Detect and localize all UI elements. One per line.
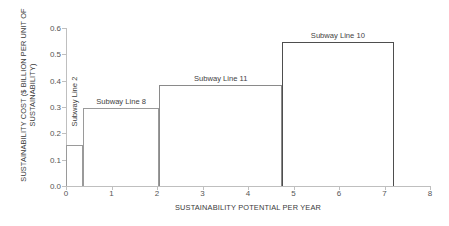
y-tick-label: 0.3 bbox=[39, 103, 61, 112]
y-tick-mark bbox=[62, 133, 66, 134]
y-tick-label: 0.1 bbox=[39, 155, 61, 164]
step-block bbox=[66, 145, 83, 186]
x-tick-label: 4 bbox=[236, 189, 260, 198]
y-tick-label: 0.6 bbox=[39, 24, 61, 33]
step-block bbox=[282, 42, 393, 186]
y-tick-label: 0.4 bbox=[39, 76, 61, 85]
x-tick-label: 0 bbox=[54, 189, 78, 198]
chart-container: SUSTAINABILITY COST ($ BILLION PER UNIT … bbox=[0, 0, 449, 226]
step-label-subway-line-11: Subway Line 11 bbox=[194, 74, 247, 83]
step-block bbox=[159, 85, 282, 186]
y-tick-label: 0.2 bbox=[39, 129, 61, 138]
x-tick-label: 1 bbox=[100, 189, 124, 198]
x-tick-label: 8 bbox=[418, 189, 442, 198]
y-tick-mark bbox=[62, 81, 66, 82]
step-label-subway-line-2: Subway Line 2 bbox=[70, 77, 79, 127]
x-tick-label: 5 bbox=[282, 189, 306, 198]
step-label-subway-line-10: Subway Line 10 bbox=[311, 31, 365, 40]
x-tick-label: 2 bbox=[145, 189, 169, 198]
y-tick-mark bbox=[62, 107, 66, 108]
x-tick-label: 7 bbox=[373, 189, 397, 198]
y-tick-label: 0.5 bbox=[39, 50, 61, 59]
step-block bbox=[83, 108, 159, 186]
y-tick-mark bbox=[62, 54, 66, 55]
y-tick-mark bbox=[62, 28, 66, 29]
x-tick-label: 3 bbox=[191, 189, 215, 198]
x-tick-label: 6 bbox=[327, 189, 351, 198]
step-label-subway-line-8: Subway Line 8 bbox=[96, 97, 146, 106]
x-axis-title: SUSTAINABILITY POTENTIAL PER YEAR bbox=[66, 203, 430, 212]
